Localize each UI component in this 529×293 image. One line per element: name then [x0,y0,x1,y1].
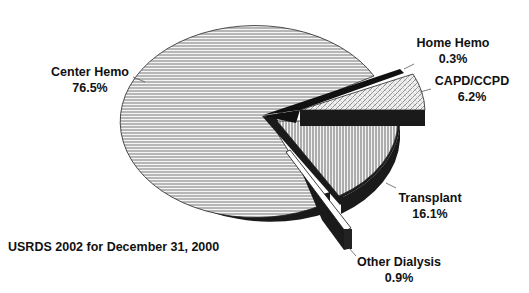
label-other-dialysis: Other Dialysis 0.9% [353,254,445,286]
label-transplant-pct: 16.1% [393,206,467,222]
source-note: USRDS 2002 for December 31, 2000 [8,240,219,254]
label-center-hemo-name: Center Hemo [48,64,132,80]
label-other-dialysis-pct: 0.9% [353,270,445,286]
label-home-hemo: Home Hemo 0.3% [413,35,493,67]
label-center-hemo-pct: 76.5% [48,80,132,96]
label-capd-ccpd-pct: 6.2% [433,89,511,105]
label-capd-ccpd: CAPD/CCPD 6.2% [433,73,511,105]
label-center-hemo: Center Hemo 76.5% [48,64,132,96]
label-capd-ccpd-name: CAPD/CCPD [433,73,511,89]
label-home-hemo-name: Home Hemo [413,35,493,51]
label-home-hemo-pct: 0.3% [413,51,493,67]
label-transplant: Transplant 16.1% [393,190,467,222]
label-other-dialysis-name: Other Dialysis [353,254,445,270]
label-transplant-name: Transplant [393,190,467,206]
